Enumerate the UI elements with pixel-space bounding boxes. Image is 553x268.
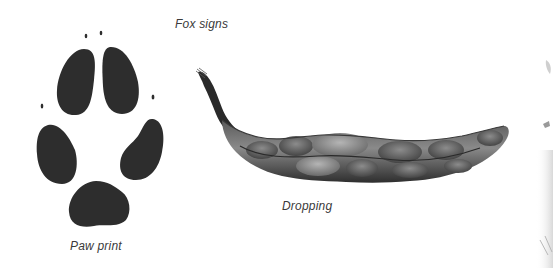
dropping-icon xyxy=(196,68,509,183)
photo-fragment xyxy=(536,60,553,268)
fox-signs-illustration: Fox signs Paw print Dropping xyxy=(0,0,553,268)
toe-pad-top-left-icon xyxy=(57,49,95,115)
toe-pad-top-right-icon xyxy=(102,47,138,114)
toe-pad-left-icon xyxy=(37,125,77,184)
paw-print-icon xyxy=(37,31,164,227)
paw-print-caption: Paw print xyxy=(70,239,122,253)
title-label: Fox signs xyxy=(175,17,228,31)
dropping-caption: Dropping xyxy=(282,199,332,213)
toe-pad-right-icon xyxy=(120,119,163,180)
illustration-canvas xyxy=(0,0,553,268)
heel-pad-icon xyxy=(69,181,130,227)
